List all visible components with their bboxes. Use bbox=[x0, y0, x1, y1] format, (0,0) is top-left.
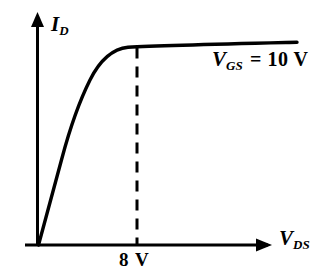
y-axis-symbol: I bbox=[51, 12, 59, 36]
drain-characteristic-curve bbox=[39, 42, 298, 245]
knee-voltage-label: 8 V bbox=[119, 250, 150, 269]
x-axis-arrowhead bbox=[256, 239, 272, 252]
curve-annotation-equals: = bbox=[250, 49, 261, 69]
mosfet-drain-characteristic-figure: ID VDS VGS = 10 V 8 V bbox=[0, 0, 332, 280]
curve-annotation-symbol: V bbox=[212, 47, 226, 71]
x-axis-subscript: DS bbox=[293, 237, 310, 252]
y-axis-subscript: D bbox=[59, 23, 69, 38]
curve-annotation-subscript: GS bbox=[226, 58, 243, 73]
curve-annotation-vgs: VGS = 10 V bbox=[212, 49, 309, 72]
x-axis-symbol: V bbox=[279, 226, 293, 250]
curve-annotation-value: 10 V bbox=[267, 49, 308, 69]
y-axis-arrowhead bbox=[31, 12, 44, 27]
y-axis-label: ID bbox=[51, 14, 69, 37]
curve-annotation-symbol-group: VGS bbox=[212, 49, 243, 72]
x-axis-label: VDS bbox=[279, 228, 310, 251]
